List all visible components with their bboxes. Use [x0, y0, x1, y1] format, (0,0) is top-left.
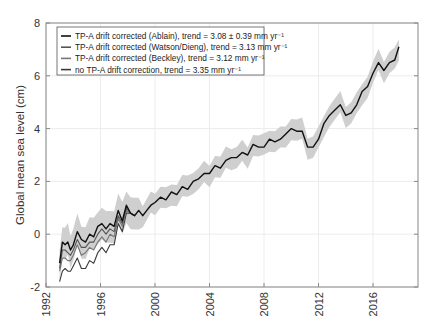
y-tick-label: 6 [34, 70, 40, 82]
x-tick-label: 2008 [258, 292, 270, 316]
legend-entry: TP-A drift corrected (Beckley), trend = … [75, 53, 265, 63]
y-tick-label: 0 [34, 228, 40, 240]
x-axis-ticks: 1992199620002004200820122016 [40, 283, 379, 316]
x-tick-label: 2000 [149, 292, 161, 316]
legend: TP-A drift corrected (Ablain), trend = 3… [57, 27, 288, 75]
legend-entry: TP-A drift corrected (Watson/Dieng), tre… [75, 42, 288, 52]
y-tick-label: 2 [34, 175, 40, 187]
legend-entry: TP-A drift corrected (Ablain), trend = 3… [75, 31, 284, 41]
x-tick-label: 1996 [95, 292, 107, 316]
y-axis-label: Global mean sea level (cm) [14, 85, 26, 225]
y-tick-label: 4 [34, 123, 40, 135]
y-tick-label: 8 [34, 17, 40, 29]
x-tick-label: 2004 [204, 292, 216, 316]
sea-level-chart: -202468 1992199620002004200820122016 Glo… [0, 0, 437, 329]
x-tick-label: 2016 [367, 292, 379, 316]
legend-entry: no TP-A drift correction, trend = 3.35 m… [75, 65, 241, 75]
x-tick-label: 2012 [313, 292, 325, 316]
x-tick-label: 1992 [40, 292, 52, 316]
y-tick-label: -2 [30, 281, 40, 293]
